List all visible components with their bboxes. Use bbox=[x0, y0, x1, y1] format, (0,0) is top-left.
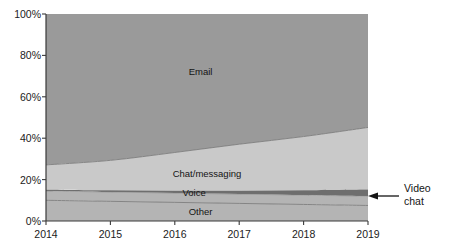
y-tick-label-40: 40% bbox=[20, 132, 41, 144]
stacked-area-chart: 100% 80% 60% 40% 20% 0% 2014 2015 2016 2… bbox=[0, 0, 455, 250]
callout-label-line-1: Video bbox=[404, 182, 431, 194]
x-tick-label-2015: 2015 bbox=[99, 228, 123, 240]
x-tick-label-2017: 2017 bbox=[228, 228, 252, 240]
series-label-other: Other bbox=[189, 206, 213, 217]
chart-page: 100% 80% 60% 40% 20% 0% 2014 2015 2016 2… bbox=[0, 0, 455, 250]
x-tick-label-2014: 2014 bbox=[34, 228, 58, 240]
x-tick-label-2016: 2016 bbox=[163, 228, 187, 240]
x-tick-label-2018: 2018 bbox=[292, 228, 316, 240]
plot-area bbox=[46, 14, 368, 221]
x-tick-label-2019: 2019 bbox=[356, 228, 380, 240]
y-tick-label-80: 80% bbox=[20, 49, 41, 61]
series-label-voice: Voice bbox=[182, 187, 205, 198]
y-tick-label-20: 20% bbox=[20, 174, 41, 186]
y-tick-label-100: 100% bbox=[14, 8, 41, 20]
callout-label-line-2: chat bbox=[404, 195, 424, 207]
series-label-chat-messaging: Chat/messaging bbox=[173, 168, 242, 179]
y-tick-label-0: 0% bbox=[26, 215, 41, 227]
series-label-email: Email bbox=[189, 66, 213, 77]
y-tick-label-60: 60% bbox=[20, 91, 41, 103]
